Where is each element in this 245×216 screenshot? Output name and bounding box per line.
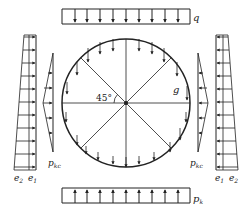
circular-section	[62, 39, 190, 167]
bottom-distributed-load-pk	[62, 188, 190, 203]
label-g: g	[173, 84, 179, 95]
top-distributed-load-q	[62, 9, 190, 24]
svg-text:e1: e1	[28, 173, 37, 184]
right-triangular-pressure-pkc	[198, 53, 208, 152]
right-e-labels: e1 e2	[215, 173, 238, 184]
right-earth-pressure-e	[216, 35, 238, 170]
load-diagram: q g 45°	[0, 0, 245, 216]
label-left-pkc: pkc	[48, 158, 61, 169]
svg-text:e1: e1	[215, 173, 224, 184]
label-q: q	[193, 12, 199, 23]
label-pk: pk	[193, 193, 203, 205]
svg-text:e2: e2	[229, 173, 238, 184]
label-right-pkc: pkc	[190, 158, 203, 169]
label-angle: 45°	[96, 93, 112, 103]
left-e-labels: e2 e1	[14, 173, 37, 184]
left-triangular-pressure-pkc	[43, 53, 53, 152]
left-earth-pressure-e	[14, 35, 36, 170]
svg-text:e2: e2	[14, 173, 23, 184]
